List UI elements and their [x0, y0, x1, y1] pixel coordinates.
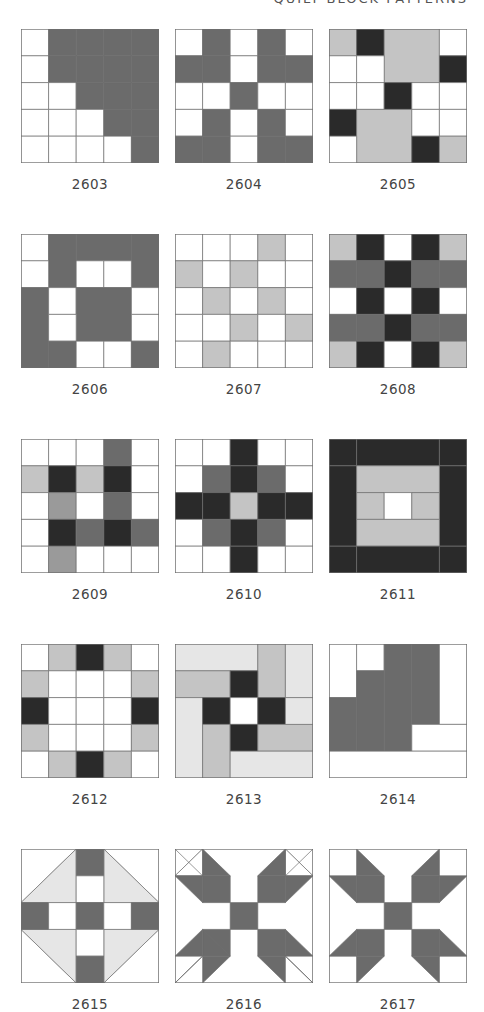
quilt-block: 2610: [175, 439, 313, 602]
page-header: QUILT BLOCK PATTERNS: [273, 0, 468, 6]
block-number: 2613: [226, 791, 262, 807]
quilt-block: 2617: [329, 849, 467, 1012]
quilt-block-pattern: [329, 29, 467, 163]
quilt-block: 2609: [21, 439, 159, 602]
block-number: 2609: [72, 586, 108, 602]
quilt-block-pattern: [175, 849, 313, 983]
quilt-block-pattern: [175, 439, 313, 573]
quilt-block: 2603: [21, 29, 159, 192]
quilt-block-pattern: [21, 234, 159, 368]
quilt-block-pattern: [175, 29, 313, 163]
quilt-block-grid: 2603 2604 2605 2606 2607 2608 2609 2610 …: [21, 29, 467, 1012]
block-number: 2615: [72, 996, 108, 1012]
quilt-block-pattern: [175, 234, 313, 368]
quilt-block: 2615: [21, 849, 159, 1012]
block-number: 2610: [226, 586, 262, 602]
quilt-block: 2605: [329, 29, 467, 192]
quilt-block-pattern: [21, 439, 159, 573]
quilt-block-pattern: [329, 849, 467, 983]
quilt-block-pattern: [21, 644, 159, 778]
quilt-block: 2608: [329, 234, 467, 397]
quilt-block-pattern: [329, 439, 467, 573]
block-number: 2614: [380, 791, 416, 807]
quilt-block-pattern: [21, 29, 159, 163]
block-number: 2616: [226, 996, 262, 1012]
block-number: 2617: [380, 996, 416, 1012]
quilt-block: 2607: [175, 234, 313, 397]
block-number: 2607: [226, 381, 262, 397]
quilt-block: 2614: [329, 644, 467, 807]
block-number: 2604: [226, 176, 262, 192]
quilt-block-pattern: [329, 644, 467, 778]
quilt-block-pattern: [175, 644, 313, 778]
block-number: 2611: [380, 586, 416, 602]
block-number: 2608: [380, 381, 416, 397]
block-number: 2603: [72, 176, 108, 192]
quilt-block: 2606: [21, 234, 159, 397]
quilt-block: 2616: [175, 849, 313, 1012]
block-number: 2606: [72, 381, 108, 397]
quilt-block: 2613: [175, 644, 313, 807]
quilt-block-pattern: [329, 234, 467, 368]
quilt-block-pattern: [21, 849, 159, 983]
block-number: 2612: [72, 791, 108, 807]
block-number: 2605: [380, 176, 416, 192]
quilt-block: 2612: [21, 644, 159, 807]
quilt-block: 2611: [329, 439, 467, 602]
quilt-block: 2604: [175, 29, 313, 192]
